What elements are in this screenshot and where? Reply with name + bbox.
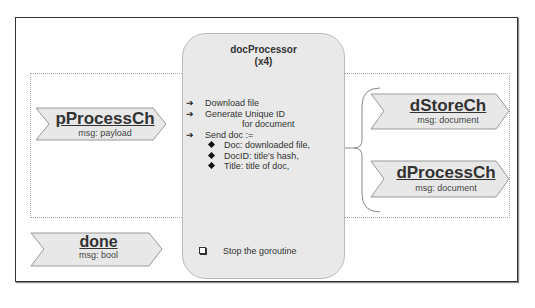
doc-field-text: Doc: downloaded file,: [224, 140, 310, 151]
step-text: Download file: [205, 98, 259, 109]
arrow-right-icon: ➔: [186, 130, 194, 141]
channel-done: done msg: bool: [30, 232, 163, 267]
channel-msg: msg: payload: [39, 128, 171, 138]
channel-name: dStoreCh: [378, 96, 518, 116]
channel-dprocessch: dProcessCh msg: document: [370, 160, 510, 198]
channel-name: pProcessCh: [39, 109, 171, 129]
stop-text: Stop the goroutine: [223, 246, 297, 256]
channel-name: done: [32, 233, 165, 251]
step-text: for document: [242, 119, 295, 130]
processor-name: docProcessor: [183, 44, 344, 56]
arrow-right-icon: ➔: [186, 109, 194, 120]
arrow-right-icon: ➔: [186, 98, 194, 109]
channel-msg: msg: bool: [32, 250, 165, 260]
processor-count: (x4): [183, 56, 344, 68]
channel-name: dProcessCh: [376, 163, 516, 183]
doc-field-text: Title: title of doc,: [224, 161, 289, 172]
step-text: Generate Unique ID: [205, 109, 285, 120]
checkbox-icon: [199, 247, 206, 254]
channel-msg: msg: document: [378, 115, 518, 125]
channel-pprocessch: pProcessCh msg: payload: [35, 107, 167, 141]
channel-dstorech: dStoreCh msg: document: [370, 93, 510, 130]
doc-processor-title: docProcessor (x4): [183, 44, 344, 68]
doc-field-text: DocID: title's hash,: [224, 151, 299, 162]
channel-msg: msg: document: [376, 183, 516, 193]
step-text: Send doc :=: [205, 130, 253, 141]
